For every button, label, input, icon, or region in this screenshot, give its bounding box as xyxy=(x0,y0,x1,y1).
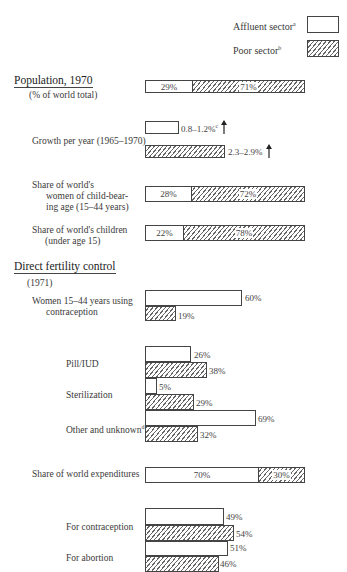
label-other: Other and unknownd xyxy=(66,422,144,436)
bar-for-abortion-poor xyxy=(145,556,219,572)
bar-for-contraception-poor xyxy=(145,525,234,541)
bar-women-share: 28% 72% xyxy=(145,186,305,202)
label-contraception-use-1: Women 15–44 years using xyxy=(32,296,133,307)
bar-population-share: 29% 71% xyxy=(145,80,305,93)
value-for-contraception-poor: 54% xyxy=(236,529,253,539)
bar-other-poor xyxy=(145,426,198,442)
label-growth: Growth per year (1965–1970) xyxy=(32,136,146,147)
label-sterilization: Sterilization xyxy=(66,390,112,401)
label-pill: Pill/IUD xyxy=(66,359,99,370)
value-pill-poor: 38% xyxy=(209,366,226,376)
seg-poor: 71% xyxy=(192,81,304,92)
value-growth-affluent: 0.8–1.2%c xyxy=(181,123,218,134)
bar-expenditures: 70% 30% xyxy=(145,467,305,483)
value-contraception-use-affluent: 60% xyxy=(245,293,262,303)
value-other-affluent: 69% xyxy=(258,414,275,424)
bar-children-share: 22% 78% xyxy=(145,225,305,241)
bar-pill-affluent xyxy=(145,346,191,362)
label-children-1: Share of world's children xyxy=(32,225,127,236)
label-for-abortion: For abortion xyxy=(66,553,113,564)
section-subtitle-fertility: (1971) xyxy=(27,278,52,289)
bar-growth-affluent xyxy=(145,121,179,134)
value-for-abortion-affluent: 51% xyxy=(230,543,247,553)
section-title-fertility: Direct fertility control xyxy=(14,260,116,274)
value-pill-affluent: 26% xyxy=(194,350,211,360)
label-women-2: women of child-bear- xyxy=(46,191,128,202)
bar-sterilization-poor xyxy=(145,394,194,410)
legend-poor-label: Poor sectorb xyxy=(233,43,281,56)
arrow-up-icon xyxy=(219,120,229,134)
value-sterilization-poor: 29% xyxy=(196,398,213,408)
value-other-poor: 32% xyxy=(200,430,217,440)
section-title-population: Population, 1970 xyxy=(14,74,93,88)
bar-contraception-use-affluent xyxy=(145,290,242,306)
bar-other-affluent xyxy=(145,410,256,426)
label-women-1: Share of world's xyxy=(32,180,94,191)
value-for-contraception-affluent: 49% xyxy=(226,512,243,522)
legend-poor-swatch xyxy=(307,40,339,57)
label-contraception-use-2: contraception xyxy=(46,307,98,318)
value-for-abortion-poor: 46% xyxy=(220,559,237,569)
label-women-3: ing age (15–44 years) xyxy=(46,202,129,213)
section-subtitle-population: (% of world total) xyxy=(29,90,97,101)
bar-growth-poor xyxy=(145,145,225,158)
bar-for-abortion-affluent xyxy=(145,541,228,556)
value-growth-poor: 2.3–2.9% xyxy=(228,147,263,157)
bar-pill-poor xyxy=(145,362,207,378)
value-sterilization-affluent: 5% xyxy=(159,382,171,392)
bar-sterilization-affluent xyxy=(145,378,157,394)
value-contraception-use-poor: 19% xyxy=(178,311,195,321)
label-for-contraception: For contraception xyxy=(66,522,133,533)
arrow-up-icon xyxy=(264,144,274,158)
bar-for-contraception-affluent xyxy=(145,508,224,525)
legend-affluent-swatch xyxy=(307,16,339,33)
legend-affluent-label: Affluent sectora xyxy=(233,19,296,32)
seg-affluent: 29% xyxy=(146,81,192,92)
label-children-2: (under age 15) xyxy=(45,236,100,247)
label-expenditures: Share of world expenditures xyxy=(32,469,139,480)
bar-contraception-use-poor xyxy=(145,306,176,321)
